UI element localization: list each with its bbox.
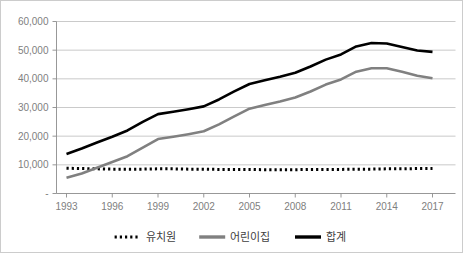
y-axis-tick-labels: -10,00020,00030,00040,00050,00060,000: [18, 16, 49, 199]
y-tick-label: -: [45, 188, 48, 199]
legend-label-유치원: 유치원: [146, 231, 176, 243]
x-axis-tick-labels: 199319961999200220052008201120142017: [55, 201, 444, 212]
x-tick-label: 1993: [55, 201, 78, 212]
series-lines: [67, 43, 433, 178]
x-tick-label: 2014: [376, 201, 399, 212]
x-tick-label: 2002: [193, 201, 216, 212]
y-tick-label: 50,000: [18, 45, 49, 56]
y-tick-label: 40,000: [18, 73, 49, 84]
chart-legend: 유치원어린이집합계: [115, 231, 346, 243]
y-tick-label: 20,000: [18, 131, 49, 142]
legend-label-어린이집: 어린이집: [230, 231, 270, 243]
chart-figure: -10,00020,00030,00040,00050,00060,000 19…: [0, 0, 463, 253]
x-tick-label: 2008: [284, 201, 307, 212]
y-tick-label: 30,000: [18, 102, 49, 113]
line-chart: -10,00020,00030,00040,00050,00060,000 19…: [0, 0, 463, 253]
x-axis-tick-marks: [67, 194, 433, 198]
legend-label-합계: 합계: [326, 231, 346, 243]
x-tick-label: 2017: [421, 201, 444, 212]
series-line-합계: [67, 43, 433, 154]
x-tick-label: 2011: [330, 201, 352, 212]
figure-border: [1, 1, 463, 253]
y-tick-label: 10,000: [18, 159, 49, 170]
y-tick-label: 60,000: [18, 16, 49, 27]
series-line-유치원: [67, 168, 433, 169]
x-tick-label: 1996: [101, 201, 124, 212]
x-tick-label: 1999: [147, 201, 170, 212]
x-tick-label: 2005: [238, 201, 261, 212]
